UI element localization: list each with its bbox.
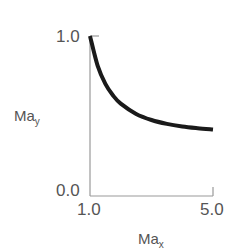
y-tick-label-top: 1.0 [56,28,80,45]
data-line [90,36,213,130]
x-tick-label-right: 5.0 [200,201,224,218]
y-axis-label: May [14,108,40,127]
chart: 1.0 0.0 1.0 5.0 May Max [0,0,240,252]
y-tick-label-bottom: 0.0 [56,182,80,199]
x-tick-label-left: 1.0 [77,201,101,218]
x-axis-label: Max [138,231,164,250]
